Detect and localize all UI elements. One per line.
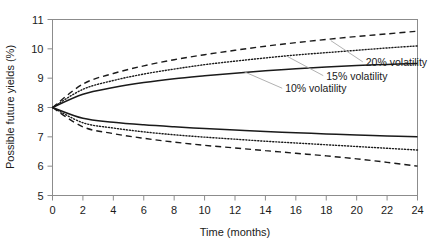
annotation-label: 20% volatility — [366, 56, 428, 68]
x-tick-label: 8 — [171, 204, 177, 216]
x-tick-label: 4 — [110, 204, 116, 216]
y-axis-title: Possible future yields (%) — [4, 45, 16, 169]
y-tick-label: 11 — [32, 14, 43, 26]
annotation-label: 15% volatility — [326, 70, 388, 82]
x-tick-label: 24 — [411, 204, 423, 216]
x-tick-label: 0 — [49, 204, 55, 216]
y-tick-label: 5 — [37, 190, 43, 202]
y-tick-label: 9 — [37, 72, 43, 84]
x-tick-label: 20 — [351, 204, 363, 216]
fan-chart-svg: 567891011 024681012141618202224 Time (mo… — [0, 0, 443, 245]
x-tick-label: 2 — [80, 204, 86, 216]
annotation-label: 10% volatility — [285, 82, 347, 94]
y-tick-label: 8 — [37, 102, 43, 114]
chart-background — [0, 0, 443, 245]
x-tick-label: 6 — [141, 204, 147, 216]
x-tick-label: 12 — [229, 204, 241, 216]
y-tick-label: 6 — [37, 160, 43, 172]
x-tick-label: 22 — [381, 204, 393, 216]
x-tick-label: 18 — [320, 204, 332, 216]
x-tick-label: 16 — [290, 204, 302, 216]
x-tick-label: 10 — [198, 204, 210, 216]
y-tick-label: 7 — [37, 131, 43, 143]
y-tick-label: 10 — [31, 43, 43, 55]
x-tick-label: 14 — [259, 204, 271, 216]
x-axis-title: Time (months) — [200, 226, 271, 238]
chart-container: 567891011 024681012141618202224 Time (mo… — [0, 0, 443, 245]
